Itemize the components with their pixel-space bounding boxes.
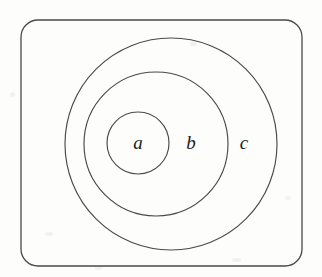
set-diagram: a b c [0, 0, 322, 277]
set-label-b: b [186, 132, 196, 153]
universe-boundary-rect [21, 20, 302, 266]
set-label-c: c [240, 132, 249, 153]
figure-canvas: a b c [0, 0, 322, 277]
set-label-a: a [133, 132, 143, 153]
set-boundary-b [84, 72, 228, 216]
